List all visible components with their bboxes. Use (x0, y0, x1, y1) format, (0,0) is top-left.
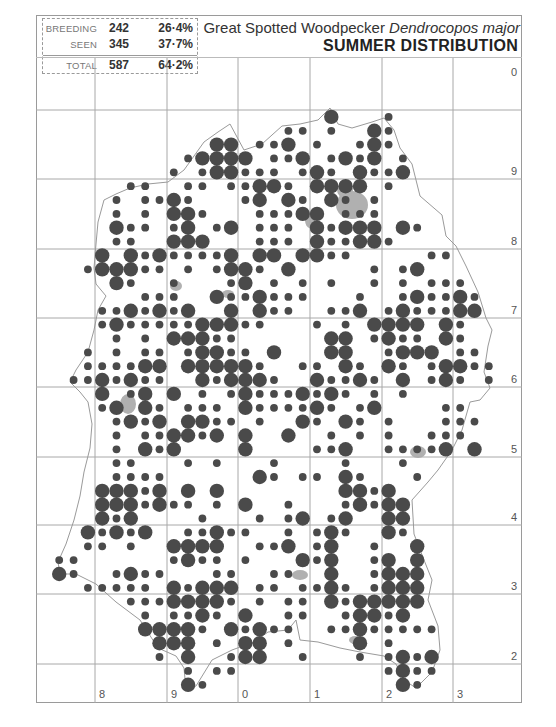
seen-dot (442, 404, 450, 412)
breeding-dot (138, 359, 152, 373)
seen-dot (285, 307, 293, 315)
breeding-dot (381, 567, 395, 581)
breeding-dot (396, 678, 410, 692)
breeding-dot (439, 331, 453, 345)
seen-dot (227, 598, 235, 606)
seen-dot (413, 653, 421, 661)
breeding-dot (238, 276, 252, 290)
breeding-dot (224, 137, 238, 151)
seen-dot (370, 335, 378, 343)
seen-dot (413, 667, 421, 675)
breeding-dot (124, 498, 138, 512)
seen-dot (227, 293, 235, 301)
seen-dot (399, 265, 407, 273)
seen-dot (213, 612, 221, 620)
breeding-dot (338, 470, 352, 484)
seen-dot (199, 404, 207, 412)
seen-dot (70, 570, 78, 578)
breeding-dot (167, 234, 181, 248)
seen-dot (299, 279, 307, 287)
seen-dot (285, 390, 293, 398)
seen-dot (141, 321, 149, 329)
breeding-dot (181, 221, 195, 235)
seen-dot (385, 127, 393, 135)
breeding-dot (238, 608, 252, 622)
seen-dot (285, 155, 293, 163)
seen-dot (270, 224, 278, 232)
breeding-dot (410, 567, 424, 581)
breeding-dot (152, 636, 166, 650)
seen-dot (141, 307, 149, 315)
breeding-dot (353, 608, 367, 622)
breeding-dot (238, 650, 252, 664)
seen-dot (199, 529, 207, 537)
breeding-dot (224, 359, 238, 373)
breeding-dot (310, 179, 324, 193)
seen-dot (242, 625, 250, 633)
seen-dot (471, 293, 479, 301)
seen-dot (356, 155, 364, 163)
seen-dot (127, 224, 135, 232)
seen-dot (242, 529, 250, 537)
seen-dot (199, 556, 207, 564)
breeding-dot (181, 428, 195, 442)
seen-dot (184, 667, 192, 675)
breeding-dot (195, 345, 209, 359)
seen-dot (285, 570, 293, 578)
seen-dot (399, 459, 407, 467)
seen-dot (270, 473, 278, 481)
seen-dot (327, 404, 335, 412)
seen-dot (327, 224, 335, 232)
seen-dot (428, 445, 436, 453)
breeding-dot (281, 262, 295, 276)
seen-dot (242, 349, 250, 357)
seen-dot (127, 598, 135, 606)
seen-dot (213, 639, 221, 647)
breeding-dot (439, 317, 453, 331)
breeding-dot (338, 359, 352, 373)
seen-dot (456, 279, 464, 287)
seen-dot (141, 265, 149, 273)
breeding-dot (181, 414, 195, 428)
seen-dot (327, 515, 335, 523)
breeding-dot (353, 498, 367, 512)
seen-dot (370, 584, 378, 592)
seen-dot (199, 515, 207, 523)
breeding-dot (210, 594, 224, 608)
seen-dot (399, 335, 407, 343)
seen-dot (184, 196, 192, 204)
seen-dot (98, 584, 106, 592)
seen-dot (399, 362, 407, 370)
breeding-dot (310, 401, 324, 415)
breeding-dot (210, 165, 224, 179)
seen-dot (456, 404, 464, 412)
breeding-dot (124, 262, 138, 276)
seen-dot (256, 542, 264, 550)
breeding-dot (253, 304, 267, 318)
seen-dot (170, 224, 178, 232)
seen-dot (141, 570, 149, 578)
seen-dot (184, 501, 192, 509)
breeding-dot (81, 525, 95, 539)
seen-dot (385, 182, 393, 190)
seen-dot (184, 349, 192, 357)
breeding-dot (224, 165, 238, 179)
breeding-dot (310, 207, 324, 221)
breeding-dot (381, 525, 395, 539)
breeding-dot (396, 165, 410, 179)
breeding-dot (195, 151, 209, 165)
breeding-dot (124, 304, 138, 318)
seen-dot (370, 265, 378, 273)
seen-dot (327, 252, 335, 260)
breeding-dot (324, 525, 338, 539)
seen-dot (170, 279, 178, 287)
y-tick-label: 3 (511, 580, 517, 592)
breeding-dot (238, 428, 252, 442)
seen-dot (385, 307, 393, 315)
breeding-dot (338, 331, 352, 345)
seen-dot (342, 307, 350, 315)
breeding-dot (367, 221, 381, 235)
breeding-dot (109, 401, 123, 415)
seen-dot (285, 598, 293, 606)
seen-dot (356, 418, 364, 426)
